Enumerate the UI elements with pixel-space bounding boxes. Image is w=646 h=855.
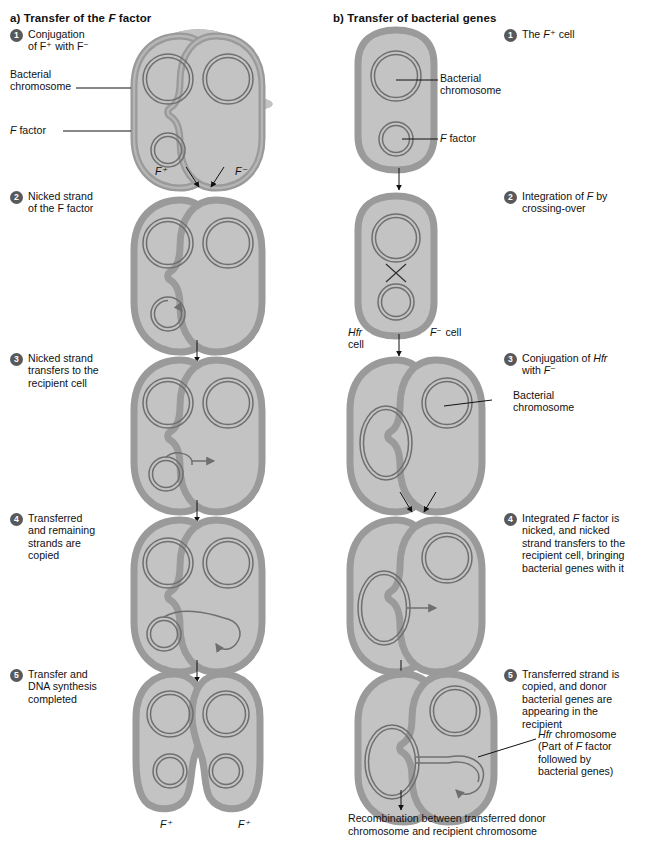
panel-a-label-f-minus-top: F⁻ [235, 165, 247, 177]
panel-b-arrow-to-caption [394, 790, 408, 814]
panel-b-callout-hfr-chromosome: Hfr chromosome (Part of F factor followe… [538, 728, 616, 778]
panel-a-callout-f-factor: F factor [10, 124, 46, 136]
panel-b-callout-line-2 [444, 396, 510, 420]
step-text: Integration of F by crossing-over [522, 190, 607, 215]
step-text: The F⁺ cell [522, 28, 575, 40]
panel-b-callout-bacterial-chromosome-1: Bacterial chromosome [440, 72, 501, 97]
panel-a-title-italic: F [108, 12, 115, 24]
panel-a-callout-bacterial-chromosome: Bacterial chromosome [10, 68, 71, 93]
step-text: Transferred and remaining strands are co… [28, 512, 95, 562]
panel-a-title-main: Transfer of the [24, 12, 109, 24]
panel-a-label-result-right: F⁺ [238, 818, 250, 830]
step-badge: 3 [10, 353, 23, 366]
panel-a-separated-cells [128, 666, 268, 816]
panel-b-step-1: 1 The F⁺ cell [504, 28, 634, 42]
step-text: Nicked strand of the F factor [28, 190, 93, 215]
panel-a-cellpair-4 [128, 508, 268, 664]
f-minus-cell [388, 520, 482, 672]
step-badge: 4 [10, 513, 23, 526]
panel-b-title: b) Transfer of bacterial genes [333, 12, 496, 24]
panel-b-step-3: 3 Conjugation of Hfr with F⁻ [504, 352, 639, 377]
step-text: Nicked strand transfers to the recipient… [28, 352, 99, 389]
step-badge: 5 [10, 669, 23, 682]
panel-a-title-suffix: factor [116, 12, 152, 24]
panel-b-bottom-caption: Recombination between transferred donor … [348, 812, 546, 837]
step-badge: 4 [504, 513, 517, 526]
step-badge: 1 [504, 29, 517, 42]
panel-a-label-f-plus-top: F⁺ [155, 165, 167, 177]
step-badge: 2 [10, 191, 23, 204]
step-badge: 2 [504, 191, 517, 204]
panel-a-step-4: 4 Transferred and remaining strands are … [10, 512, 125, 562]
panel-a-label-result-left: F⁺ [160, 818, 172, 830]
step-text: Conjugation of Hfr with F⁻ [522, 352, 607, 377]
panel-b-callout-bacterial-chromosome-2: Bacterial chromosome [513, 389, 574, 414]
panel-b-single-cell-2 [352, 190, 448, 342]
panel-b-step-4: 4 Integrated F factor is nicked, and nic… [504, 512, 644, 574]
step-badge: 5 [504, 669, 517, 682]
panel-b-label-f-minus-cell: F⁻ cell [430, 326, 461, 338]
step-text: Transferred strand is copied, and donor … [522, 668, 619, 730]
panel-b-title-prefix: b) [333, 12, 344, 24]
panel-b-callout-f-factor: F factor [440, 132, 476, 144]
step-text: Integrated F factor is nicked, and nicke… [522, 512, 625, 574]
panel-a-title-prefix: a) [10, 12, 20, 24]
panel-b-step-5: 5 Transferred strand is copied, and dono… [504, 668, 644, 730]
step-badge: 1 [10, 29, 23, 42]
panel-a-cellpair-2 [128, 188, 268, 344]
panel-a-step-2: 2 Nicked strand of the F factor [10, 190, 125, 215]
step-text: Conjugation of F⁺ with F⁻ [28, 28, 89, 53]
panel-b-step-2: 2 Integration of F by crossing-over [504, 190, 639, 215]
panel-a-step-3: 3 Nicked strand transfers to the recipie… [10, 352, 125, 389]
panel-a-title: a) Transfer of the F factor [10, 12, 151, 24]
step-text: Transfer and DNA synthesis completed [28, 668, 97, 705]
step-badge: 3 [504, 353, 517, 366]
figure-canvas: a) Transfer of the F factor b) Transfer … [0, 0, 646, 855]
panel-b-cellpair-3 [344, 348, 488, 504]
panel-a-step-1: 1 Conjugation of F⁺ with F⁻ [10, 28, 120, 53]
panel-a-step-5: 5 Transfer and DNA synthesis completed [10, 668, 125, 705]
panel-b-cellpair-4 [344, 508, 488, 664]
panel-b-title-main: Transfer of bacterial genes [347, 12, 496, 24]
panel-b-callout-line-hfr [478, 735, 544, 763]
panel-a-cellpair-3 [128, 348, 268, 504]
